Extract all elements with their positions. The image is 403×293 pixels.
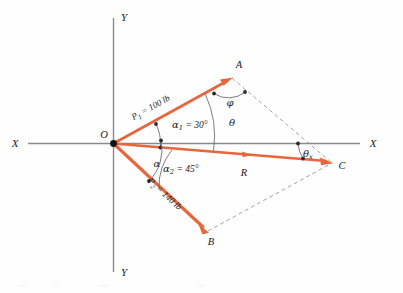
point-label-o: O xyxy=(100,129,108,140)
point-label-c: C xyxy=(338,160,346,171)
angle-label-alpha: α xyxy=(154,158,161,169)
force-label-p1: P1 = 100 lb xyxy=(129,93,173,124)
figure-container: X X Y Y O A B C P1 = 100 lb P2 = 140 lb … xyxy=(0,0,403,293)
vector-diagram: X X Y Y O A B C P1 = 100 lb P2 = 140 lb … xyxy=(0,0,403,293)
arc-phi-tip-start xyxy=(212,92,216,96)
arc-phi-tip-end xyxy=(243,90,247,94)
x-axis-right-label: X xyxy=(369,137,378,149)
x-axis-left-label: X xyxy=(11,137,20,149)
origin-point-dot xyxy=(110,140,117,147)
point-label-b: B xyxy=(208,236,215,247)
dashed-line-b-to-c xyxy=(208,163,332,231)
scan-artifact xyxy=(52,285,60,287)
y-axis-top-label: Y xyxy=(121,11,129,23)
angle-label-alpha2: α2 = 45° xyxy=(163,163,199,176)
vector-resultant-line xyxy=(114,144,327,162)
scan-artifact xyxy=(98,285,109,287)
y-axis-bottom-label: Y xyxy=(121,266,129,278)
arc-theta-x-tip-start xyxy=(296,142,300,146)
arc-alpha1-tip-start xyxy=(154,122,158,126)
force-label-p1-group: P1 = 100 lb xyxy=(129,93,173,124)
angle-label-alpha1: α1 = 30° xyxy=(172,119,208,132)
dashed-line-a-to-c xyxy=(232,78,332,163)
force-label-p2-group: P2 = 140 lb xyxy=(145,175,185,213)
arc-alpha-tip-start xyxy=(159,139,163,143)
scan-artifact xyxy=(18,285,28,287)
resultant-label-r: R xyxy=(240,167,248,178)
vector-resultant-arrowhead xyxy=(320,158,333,166)
scan-artifact xyxy=(196,285,205,287)
force-label-p2: P2 = 140 lb xyxy=(145,175,185,213)
angle-label-theta: θ xyxy=(229,117,235,128)
point-label-a: A xyxy=(235,59,243,70)
angle-label-phi: φ xyxy=(226,97,233,108)
